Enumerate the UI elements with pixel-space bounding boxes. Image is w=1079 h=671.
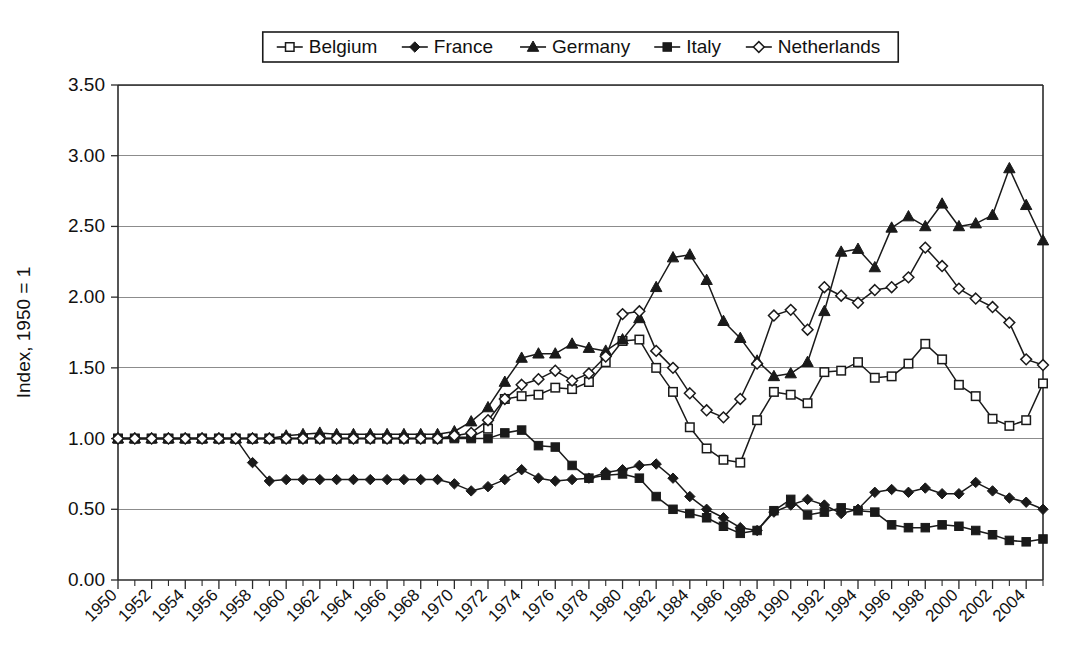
marker-open-square (1022, 416, 1031, 425)
marker-filled-square (786, 495, 795, 504)
x-tick-label: 2000 (922, 585, 962, 625)
x-tick-label: 1956 (182, 585, 222, 625)
marker-filled-square (1005, 536, 1014, 545)
x-tick-label: 1974 (484, 585, 524, 625)
marker-filled-square (652, 492, 661, 501)
x-tick-label: 1958 (215, 585, 255, 625)
marker-filled-square (753, 526, 762, 535)
marker-open-square (803, 399, 812, 408)
marker-open-square (551, 383, 560, 392)
y-axis-title: Index, 1950 = 1 (13, 267, 34, 399)
marker-filled-square (484, 434, 493, 443)
y-tick-label: 3.00 (68, 145, 105, 166)
marker-open-square (854, 358, 863, 367)
marker-open-square (719, 456, 728, 465)
marker-open-square (669, 388, 678, 397)
marker-filled-square (854, 506, 863, 515)
marker-open-square (1039, 379, 1048, 388)
marker-filled-square (770, 506, 779, 515)
chart-legend: BelgiumFranceGermanyItalyNetherlands (263, 32, 898, 62)
x-tick-label: 1980 (585, 585, 625, 625)
marker-filled-square (534, 441, 543, 450)
x-tick-label: 1972 (451, 585, 491, 625)
x-tick-label: 1992 (787, 585, 827, 625)
x-tick-label: 2004 (989, 585, 1029, 625)
marker-open-square (971, 392, 980, 401)
marker-filled-square (635, 474, 644, 483)
marker-filled-square (837, 504, 846, 513)
marker-filled-square (904, 523, 913, 532)
marker-filled-square (1022, 538, 1031, 547)
marker-open-square (635, 335, 644, 344)
marker-filled-square (686, 509, 695, 518)
marker-open-square (837, 366, 846, 375)
x-tick-label: 1988 (720, 585, 760, 625)
marker-open-square (871, 374, 880, 383)
plot-background (118, 85, 1043, 580)
legend-label: Italy (686, 36, 721, 57)
legend-label: France (434, 36, 493, 57)
marker-open-square (820, 368, 829, 377)
x-tick-label: 1994 (821, 585, 861, 625)
marker-open-square (534, 390, 543, 399)
marker-filled-square (887, 521, 896, 530)
marker-open-square (517, 392, 526, 401)
marker-filled-square (955, 522, 964, 531)
x-tick-label: 1952 (114, 585, 154, 625)
marker-filled-square (871, 508, 880, 516)
marker-open-square (702, 444, 711, 453)
legend-label: Belgium (309, 36, 378, 57)
marker-open-square (988, 415, 997, 424)
marker-open-square (770, 388, 779, 397)
marker-filled-square (736, 529, 745, 538)
marker-open-square (938, 355, 947, 364)
marker-open-square (1005, 422, 1014, 431)
x-tick-label: 1950 (81, 585, 121, 625)
marker-filled-square (921, 523, 930, 532)
marker-filled-square (1039, 535, 1048, 544)
marker-open-square (921, 340, 930, 349)
marker-filled-square (618, 470, 627, 479)
x-tick-label: 1970 (417, 585, 457, 625)
index-line-chart: 0.000.501.001.502.002.503.003.5019501952… (0, 0, 1079, 671)
y-tick-label: 3.50 (68, 74, 105, 95)
marker-open-square (904, 359, 913, 368)
x-tick-label: 1986 (686, 585, 726, 625)
marker-filled-square (517, 426, 526, 435)
marker-filled-square (551, 443, 560, 452)
x-tick-label: 1960 (249, 585, 289, 625)
x-tick-label: 1982 (619, 585, 659, 625)
legend-label: Germany (552, 36, 631, 57)
marker-filled-square (568, 461, 577, 470)
y-tick-label: 1.50 (68, 357, 105, 378)
x-tick-label: 1976 (518, 585, 558, 625)
x-tick-label: 1984 (652, 585, 692, 625)
legend-label: Netherlands (778, 36, 880, 57)
x-tick-label: 1978 (552, 585, 592, 625)
y-tick-label: 0.50 (68, 498, 105, 519)
marker-open-square (955, 381, 964, 390)
marker-filled-square (971, 526, 980, 535)
x-tick-label: 1954 (148, 585, 188, 625)
marker-filled-square (988, 530, 997, 539)
marker-open-square (887, 372, 896, 381)
marker-open-square (736, 458, 745, 467)
y-tick-label: 2.00 (68, 286, 105, 307)
marker-open-square (686, 423, 695, 432)
marker-open-square (286, 43, 295, 52)
x-tick-label: 1968 (383, 585, 423, 625)
marker-filled-square (702, 514, 711, 523)
y-tick-label: 0.00 (68, 569, 105, 590)
marker-filled-square (820, 508, 829, 516)
y-tick-label: 1.00 (68, 428, 105, 449)
x-tick-label: 1962 (282, 585, 322, 625)
marker-filled-square (663, 43, 672, 52)
marker-filled-square (501, 429, 510, 438)
marker-filled-square (719, 522, 728, 531)
x-tick-label: 1998 (888, 585, 928, 625)
y-tick-label: 2.50 (68, 215, 105, 236)
marker-filled-square (669, 505, 678, 514)
x-tick-label: 2002 (955, 585, 995, 625)
marker-open-square (652, 364, 661, 373)
marker-filled-square (585, 474, 594, 483)
